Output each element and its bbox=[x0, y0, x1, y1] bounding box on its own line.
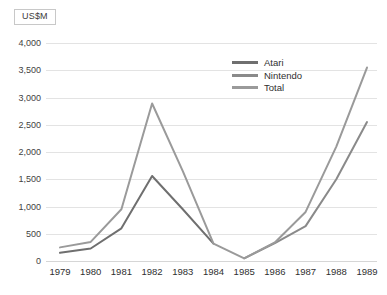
series-line-nintendo bbox=[244, 122, 367, 258]
x-axis-tick-label: 1981 bbox=[111, 266, 132, 277]
x-axis-tick-label: 1979 bbox=[49, 266, 70, 277]
y-axis-tick-label: 2,500 bbox=[18, 120, 41, 130]
x-axis-tick-label: 1985 bbox=[234, 266, 255, 277]
x-axis-tick-label: 1988 bbox=[326, 266, 347, 277]
y-axis-tick-label: 0 bbox=[36, 256, 41, 266]
legend-item-label: Total bbox=[264, 83, 284, 93]
x-axis-tick-label: 1986 bbox=[264, 266, 285, 277]
series-lines bbox=[46, 43, 377, 261]
x-axis-tick-label: 1987 bbox=[295, 266, 316, 277]
x-axis-tick-label: 1980 bbox=[80, 266, 101, 277]
x-axis-tick-label: 1984 bbox=[203, 266, 224, 277]
legend-swatch-icon bbox=[232, 61, 258, 64]
x-axis-labels: 1979198019811982198319841985198619871988… bbox=[46, 266, 377, 286]
series-line-total bbox=[60, 68, 367, 259]
y-axis-labels: 05001,0001,5002,0002,5003,0003,5004,000 bbox=[0, 43, 41, 261]
legend-item-nintendo[interactable]: Nintendo bbox=[232, 71, 302, 81]
y-axis-tick-label: 1,500 bbox=[18, 174, 41, 184]
y-axis-tick-label: 500 bbox=[26, 229, 41, 239]
legend-item-total[interactable]: Total bbox=[232, 83, 302, 93]
y-axis-tick-label: 2,000 bbox=[18, 147, 41, 157]
legend-item-label: Atari bbox=[264, 58, 284, 68]
y-axis-tick-label: 4,000 bbox=[18, 38, 41, 48]
legend-swatch-icon bbox=[232, 86, 258, 89]
legend-swatch-icon bbox=[232, 74, 258, 77]
x-axis-tick-label: 1983 bbox=[172, 266, 193, 277]
legend-item-atari[interactable]: Atari bbox=[232, 58, 302, 68]
gridline bbox=[46, 261, 377, 262]
chart-legend: AtariNintendoTotal bbox=[232, 58, 302, 93]
legend-item-label: Nintendo bbox=[264, 71, 302, 81]
y-axis-tick-label: 3,000 bbox=[18, 93, 41, 103]
x-axis-tick-label: 1982 bbox=[142, 266, 163, 277]
units-badge: US$M bbox=[14, 9, 56, 25]
plot-area bbox=[46, 43, 377, 261]
y-axis-tick-label: 3,500 bbox=[18, 65, 41, 75]
y-axis-tick-label: 1,000 bbox=[18, 202, 41, 212]
line-chart: US$M 05001,0001,5002,0002,5003,0003,5004… bbox=[0, 0, 387, 295]
x-axis-tick-label: 1989 bbox=[356, 266, 377, 277]
units-badge-label: US$M bbox=[22, 11, 48, 21]
